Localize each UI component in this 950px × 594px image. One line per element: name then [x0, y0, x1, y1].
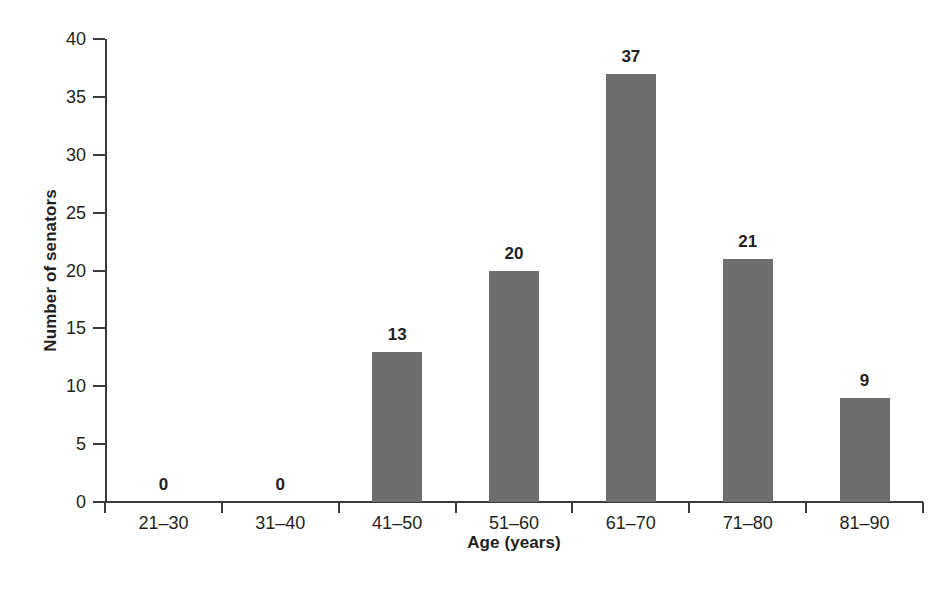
y-tick-mark	[93, 96, 105, 98]
y-tick-label: 0	[30, 493, 86, 511]
x-tick-mark	[455, 502, 457, 513]
bar	[606, 74, 656, 502]
x-tick-mark	[221, 502, 223, 513]
y-tick-mark	[93, 154, 105, 156]
x-tick-label: 61–70	[572, 513, 689, 534]
x-tick-mark	[104, 502, 106, 513]
bar	[372, 352, 422, 502]
y-tick-label: 10	[30, 377, 86, 395]
bar-value-label: 37	[572, 47, 689, 67]
y-tick-label: 20	[30, 262, 86, 280]
y-axis-line	[105, 39, 107, 503]
y-tick-label: 15	[30, 319, 86, 337]
y-tick-mark	[93, 327, 105, 329]
bar-chart-figure: Number of senators 0510152025303540 0013…	[0, 0, 950, 594]
x-tick-label: 21–30	[105, 513, 222, 534]
y-tick-label: 35	[30, 88, 86, 106]
bar	[723, 259, 773, 502]
x-tick-label: 81–90	[806, 513, 923, 534]
y-tick-mark	[93, 270, 105, 272]
bar-value-label: 13	[339, 325, 456, 345]
bar-value-label: 0	[222, 475, 339, 495]
y-tick-label: 30	[30, 146, 86, 164]
x-tick-mark	[922, 502, 924, 513]
y-tick-label: 5	[30, 435, 86, 453]
x-tick-mark	[571, 502, 573, 513]
bar-value-label: 21	[689, 232, 806, 252]
y-tick-mark	[93, 385, 105, 387]
x-tick-mark	[338, 502, 340, 513]
bar	[840, 398, 890, 502]
x-axis-title: Age (years)	[105, 533, 923, 553]
x-tick-mark	[688, 502, 690, 513]
x-tick-label: 51–60	[456, 513, 573, 534]
bar-value-label: 0	[105, 475, 222, 495]
bar	[489, 271, 539, 503]
bar-value-label: 20	[456, 244, 573, 264]
x-tick-mark	[805, 502, 807, 513]
y-tick-mark	[93, 212, 105, 214]
y-tick-label: 40	[30, 30, 86, 48]
y-tick-label: 25	[30, 204, 86, 222]
x-tick-label: 41–50	[339, 513, 456, 534]
y-tick-mark	[93, 38, 105, 40]
y-tick-mark	[93, 443, 105, 445]
x-tick-label: 31–40	[222, 513, 339, 534]
bar-value-label: 9	[806, 371, 923, 391]
x-tick-label: 71–80	[689, 513, 806, 534]
